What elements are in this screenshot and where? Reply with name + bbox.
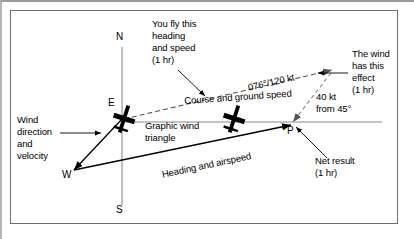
leader-you-fly: [178, 70, 205, 96]
annotation-graphic-wind-line2: triangle: [145, 133, 175, 144]
annotation-wind-value-line1: 40 kt: [316, 92, 336, 103]
annotation-wind-value-line2: from 45°: [316, 104, 351, 115]
annotation-wind-direction-line3: and: [17, 139, 33, 150]
compass-label-south: S: [116, 205, 123, 216]
annotation-graphic-wind-line1: Graphic wind: [145, 121, 199, 132]
aircraft-symbol-enroute: [219, 102, 249, 135]
annotation-wind-direction-line4: velocity: [17, 151, 48, 162]
annotation-net-result-line1: Net result: [315, 156, 355, 167]
wind-triangle-drawing: [0, 0, 414, 239]
annotation-wind-direction-line1: Wind: [17, 115, 38, 126]
compass-label-north: N: [116, 32, 123, 43]
annotation-you-fly-line1: You fly this: [152, 19, 196, 30]
annotation-wind-effect-line1: The wind: [352, 49, 390, 60]
annotation-net-result-line2: (1 hr): [315, 168, 337, 179]
compass-label-east: E: [108, 98, 115, 109]
annotation-wind-direction-line2: direction: [17, 127, 52, 138]
annotation-you-fly-line4: (1 hr): [152, 55, 174, 66]
point-label-p: P: [287, 126, 294, 137]
annotation-you-fly-line3: and speed: [152, 43, 195, 54]
leader-net-result: [296, 127, 327, 158]
annotation-wind-effect-line2: has this: [352, 61, 384, 72]
annotation-you-fly-line2: heading: [152, 31, 185, 42]
figure-canvas: N E S W P You fly this heading and speed…: [0, 0, 414, 239]
annotation-wind-effect-line3: effect: [352, 73, 374, 84]
compass-label-west: W: [62, 170, 71, 181]
annotation-wind-effect-line4: (1 hr): [352, 85, 374, 96]
